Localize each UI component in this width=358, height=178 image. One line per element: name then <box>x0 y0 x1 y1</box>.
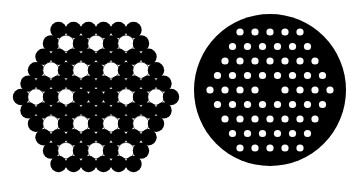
disc-hole <box>274 72 281 79</box>
disc-hole <box>236 57 243 64</box>
disc-hole <box>259 101 266 108</box>
disc-hole <box>296 144 303 151</box>
disc-hole <box>296 115 303 122</box>
disc-hole <box>304 43 311 50</box>
disc-hole <box>311 57 318 64</box>
disc-hole <box>221 115 228 122</box>
disc-hole <box>259 43 266 50</box>
disc-hole <box>229 43 236 50</box>
disc-hole <box>326 86 333 93</box>
disc-hole <box>296 28 303 35</box>
disc-hole <box>229 101 236 108</box>
disc-hole <box>236 86 243 93</box>
disc-hole <box>311 86 318 93</box>
solid-fiber <box>80 156 96 172</box>
disc-hole <box>281 28 288 35</box>
disc-hole <box>251 57 258 64</box>
disc-hole <box>251 86 258 93</box>
disc-hole <box>289 43 296 50</box>
solid-fiber <box>125 156 141 172</box>
solid-fiber <box>65 156 81 172</box>
disc-hole <box>259 130 266 137</box>
disc-hole <box>251 115 258 122</box>
disc-hole <box>319 101 326 108</box>
disc-hole <box>289 72 296 79</box>
disc-hole <box>274 130 281 137</box>
disc-hole <box>266 28 273 35</box>
disc-hole <box>296 57 303 64</box>
disc-hole <box>289 130 296 137</box>
disc-hole <box>259 72 266 79</box>
disc-hole <box>236 144 243 151</box>
disc-hole <box>251 144 258 151</box>
disc-hole <box>304 101 311 108</box>
disc-hole <box>214 101 221 108</box>
disc-hole <box>251 28 258 35</box>
disc-hole <box>311 115 318 122</box>
solid-fiber <box>50 156 66 172</box>
disc-hole <box>281 86 288 93</box>
hexagonal-fiber-bundle <box>13 22 179 172</box>
disc-hole <box>266 144 273 151</box>
disc-hole <box>229 130 236 137</box>
disc-hole <box>229 72 236 79</box>
disc-hole <box>296 86 303 93</box>
disc-hole <box>206 86 213 93</box>
disc-hole <box>244 43 251 50</box>
disc-hole <box>266 115 273 122</box>
disc-hole <box>266 57 273 64</box>
solid-fiber <box>95 156 111 172</box>
disc-hole <box>281 57 288 64</box>
disc-hole <box>221 57 228 64</box>
disc-hole <box>244 72 251 79</box>
disc-body <box>194 14 346 166</box>
disc-hole <box>244 130 251 137</box>
disc-hole <box>289 101 296 108</box>
disc-hole <box>236 115 243 122</box>
disc-hole <box>304 72 311 79</box>
disc-hole <box>304 130 311 137</box>
fiber-bundle-diagram <box>0 0 358 178</box>
disc-hole <box>274 43 281 50</box>
disc-hole <box>274 101 281 108</box>
disc-hole <box>236 28 243 35</box>
disc-hole <box>214 72 221 79</box>
disc-hole <box>281 115 288 122</box>
disc-hole <box>281 144 288 151</box>
disc-hole <box>221 86 228 93</box>
disc-hole <box>319 72 326 79</box>
solid-fiber <box>110 156 126 172</box>
disc-hole <box>244 101 251 108</box>
perforated-disc <box>194 14 346 166</box>
